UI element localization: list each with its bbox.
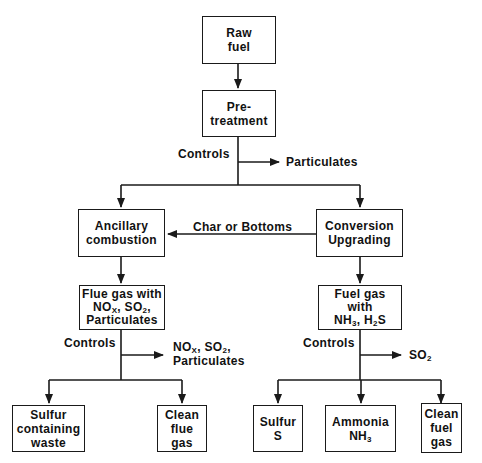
- node-flue-gas: Flue gas with NOX, SO2, Particulates: [79, 285, 165, 330]
- node-text: treatment: [210, 114, 267, 128]
- node-text: Ammonia: [332, 415, 389, 429]
- node-text: gas: [431, 435, 453, 449]
- node-sulfur-s: Sulfur S: [253, 405, 303, 452]
- node-raw-fuel: Raw fuel: [202, 16, 276, 64]
- node-text: Pre-: [227, 100, 252, 114]
- node-text: fuel: [228, 40, 251, 54]
- node-text: S: [274, 429, 282, 443]
- node-clean-flue-gas: Clean flue gas: [157, 405, 207, 452]
- node-clean-fuel-gas: Clean fuel gas: [421, 403, 462, 453]
- node-ammonia: Ammonia NH3: [325, 405, 396, 452]
- node-text: Conversion: [325, 219, 394, 233]
- node-conversion-upgrading: Conversion Upgrading: [316, 209, 403, 257]
- node-text: gas: [171, 436, 193, 450]
- node-text: waste: [31, 436, 66, 450]
- node-text: Raw: [226, 26, 252, 40]
- label-controls-top: Controls: [178, 147, 230, 161]
- node-text: NH3: [349, 429, 372, 443]
- node-text: Ancillary: [95, 219, 148, 233]
- node-text: combustion: [86, 233, 157, 247]
- node-fuel-gas: Fuel gas with NH3, H2S: [318, 285, 402, 330]
- node-text: Clean: [424, 407, 458, 421]
- fuel-processing-flow-diagram: Raw fuel Pre- treatment Controls Particu…: [0, 0, 482, 463]
- node-text: fuel: [430, 421, 453, 435]
- node-text: Sulfur: [260, 415, 296, 429]
- node-sulfur-containing-waste: Sulfur containing waste: [12, 405, 85, 452]
- node-text: flue: [171, 422, 194, 436]
- node-text: Upgrading: [328, 233, 391, 247]
- label-particulates-top: Particulates: [286, 155, 358, 169]
- label-controls-left: Controls: [64, 336, 116, 350]
- node-text: Clean: [165, 408, 199, 422]
- label-controls-right: Controls: [303, 336, 355, 350]
- node-text: Particulates: [86, 314, 158, 327]
- node-text: containing: [17, 422, 81, 436]
- label-char-or-bottoms: Char or Bottoms: [193, 220, 292, 234]
- label-right-emissions: SO2: [409, 348, 432, 362]
- node-ancillary-combustion: Ancillary combustion: [78, 209, 165, 257]
- node-pretreatment: Pre- treatment: [202, 90, 276, 137]
- node-text: Sulfur: [30, 408, 66, 422]
- label-left-emissions: NOX, SO2, Particulates: [173, 340, 245, 368]
- node-text: NH3, H2S: [334, 314, 386, 327]
